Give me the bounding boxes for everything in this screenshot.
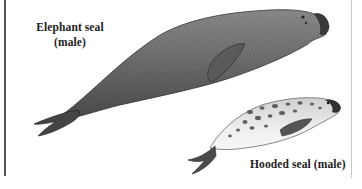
hooded-seal-eye <box>327 102 329 104</box>
hooded-seal-label: Hooded seal (male) <box>250 157 360 172</box>
elephant-seal-eye <box>301 15 304 18</box>
elephant-seal-label-name: Elephant seal <box>30 20 110 35</box>
elephant-seal-label-sex: (male) <box>30 35 110 50</box>
hooded-seal-tail <box>188 146 216 174</box>
elephant-seal-label: Elephant seal (male) <box>30 20 110 50</box>
elephant-seal-tail <box>34 110 80 136</box>
